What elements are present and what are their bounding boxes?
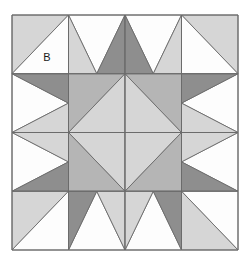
quilt-block-figure: B xyxy=(0,0,250,263)
patch-label-layer: B xyxy=(43,51,50,63)
quilt-block-canvas: B xyxy=(0,0,250,263)
patch-label-b: B xyxy=(43,51,50,63)
